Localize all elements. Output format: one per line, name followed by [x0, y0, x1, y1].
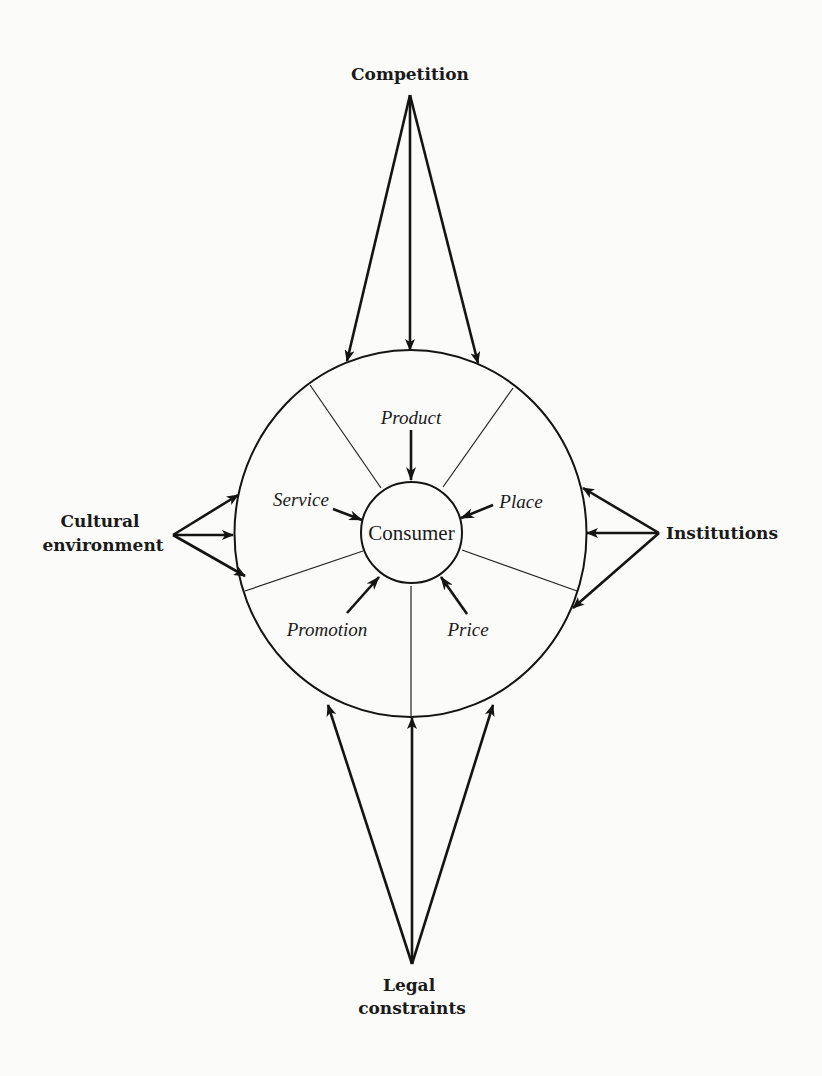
cultural-environment-line-1: Cultural [61, 511, 141, 531]
institutions-label: Institutions [666, 523, 778, 543]
marketing-environment-diagram: Consumer Product Service Place Promotion… [0, 0, 822, 1076]
promotion-label: Promotion [286, 619, 368, 640]
consumer-label: Consumer [368, 521, 454, 545]
service-arrow [333, 509, 362, 520]
legal-constraints-line-1: Legal [383, 975, 436, 995]
product-label: Product [380, 407, 442, 428]
promotion-arrow [347, 577, 379, 613]
competition-arrows [347, 95, 478, 363]
legal-constraints-line-2: constraints [358, 998, 466, 1018]
legal-constraints-label: Legal constraints [358, 975, 466, 1018]
cultural-environment-label: Cultural environment [42, 511, 163, 555]
service-label: Service [273, 489, 329, 510]
cultural-environment-line-2: environment [42, 535, 163, 555]
price-label: Price [446, 619, 488, 640]
place-label: Place [498, 491, 542, 512]
competition-label: Competition [351, 64, 469, 84]
price-arrow [441, 577, 467, 614]
place-arrow [461, 505, 493, 518]
legal-constraints-arrows [328, 705, 493, 964]
